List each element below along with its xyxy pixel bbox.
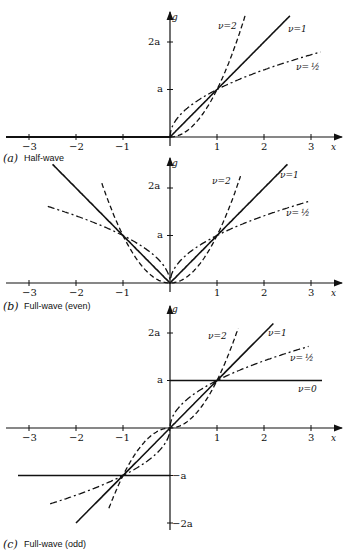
tick-m3-b: −3 [22, 287, 37, 298]
tick-2a-b: 2a [148, 180, 160, 191]
tick-a-a: a [157, 83, 163, 94]
tick-m3-c: −3 [22, 432, 37, 443]
caption-b: Full-wave (even) [24, 301, 91, 311]
chart-svg: g 2a a −3 −2 −1 1 2 3 x ν=2 ν=1 ν= ½ (a)… [0, 0, 349, 554]
curve-nu2 [102, 176, 241, 283]
tick-2a-a: 2a [148, 36, 160, 47]
tick-neg-a-c: −a [172, 470, 186, 481]
legend-half-a: ½ [311, 62, 320, 72]
x-axis-label-b: x [331, 288, 336, 298]
tick-m3-a: −3 [22, 141, 37, 152]
y-axis-label-a: g [172, 12, 178, 22]
tick-m2-a: −2 [69, 141, 84, 152]
caption-c: Full-wave (odd) [24, 539, 86, 549]
caption-letter-c: (c) [3, 538, 18, 551]
tick-3-c: 3 [308, 432, 314, 443]
tick-m2-b: −2 [69, 287, 84, 298]
y-axis-label-c: g [172, 304, 178, 314]
tick-1-b: 1 [214, 287, 220, 298]
tick-a-c: a [157, 374, 163, 385]
panel-c [6, 306, 342, 530]
tick-neg-2a-c: −2a [172, 518, 193, 529]
legend-nu1-b: ν=1 [280, 170, 299, 180]
caption-a: Half-wave [24, 153, 64, 163]
x-axis-label-a: x [331, 142, 336, 152]
tick-m1-b: −1 [115, 287, 130, 298]
tick-2-a: 2 [261, 141, 267, 152]
legend-nuhalf-c: ν= [290, 353, 303, 363]
tick-2-b: 2 [261, 287, 267, 298]
legend-nuhalf-a: ν= [296, 62, 309, 72]
curve-nu1 [76, 324, 273, 524]
legend-nu1-a: ν=1 [288, 24, 307, 34]
x-axis-label-c: x [331, 433, 336, 443]
figure: g 2a a −3 −2 −1 1 2 3 x ν=2 ν=1 ν= ½ (a)… [0, 0, 349, 554]
legend-nu0-c: ν=0 [298, 384, 317, 394]
curve-nu1 [170, 16, 290, 137]
legend-nu2-c: ν=2 [208, 331, 227, 341]
curve-nu2 [109, 328, 238, 508]
caption-letter-b: (b) [3, 300, 19, 313]
legend-half-c: ½ [305, 353, 314, 363]
tick-3-b: 3 [308, 287, 314, 298]
y-axis-label-b: g [172, 158, 178, 168]
tick-1-a: 1 [214, 141, 220, 152]
curve-nu2 [170, 15, 245, 137]
tick-1-c: 1 [214, 432, 220, 443]
legend-nu2-b: ν=2 [212, 176, 231, 186]
tick-m2-c: −2 [69, 432, 84, 443]
tick-m1-c: −1 [115, 432, 130, 443]
tick-3-a: 3 [308, 141, 314, 152]
tick-a-b: a [157, 229, 163, 240]
legend-nuhalf-b: ν= [286, 208, 299, 218]
caption-letter-a: (a) [3, 152, 18, 165]
curve-nuhalf [48, 201, 311, 280]
tick-2-c: 2 [261, 432, 267, 443]
tick-2a-c: 2a [148, 327, 160, 338]
tick-m1-a: −1 [115, 141, 130, 152]
legend-nu1-c: ν=1 [268, 328, 287, 338]
legend-half-b: ½ [301, 208, 310, 218]
legend-nu2-a: ν=2 [218, 21, 237, 31]
